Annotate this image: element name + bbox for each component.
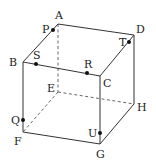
- label-T: T: [119, 36, 127, 49]
- label-U: U: [88, 127, 97, 140]
- label-D: D: [136, 23, 145, 36]
- cube-diagram: A B C D E F G H P S R T Q U: [0, 0, 156, 165]
- point-S: [34, 62, 38, 66]
- label-Q: Q: [11, 114, 20, 127]
- edge-EF: [23, 92, 58, 132]
- label-H: H: [137, 101, 147, 114]
- point-P: [51, 28, 55, 32]
- point-Q: [21, 118, 25, 122]
- edge-EH: [58, 92, 134, 104]
- edge-AD: [58, 24, 134, 35]
- label-P: P: [42, 23, 50, 36]
- label-S: S: [33, 49, 41, 62]
- label-E: E: [47, 82, 55, 95]
- point-T: [127, 40, 131, 44]
- label-A: A: [54, 9, 64, 22]
- label-B: B: [9, 56, 17, 69]
- label-F: F: [14, 135, 22, 148]
- label-R: R: [84, 58, 93, 71]
- label-G: G: [96, 148, 105, 161]
- point-U: [98, 131, 102, 135]
- label-C: C: [103, 77, 111, 90]
- point-R: [85, 71, 89, 75]
- edge-GH: [100, 104, 134, 144]
